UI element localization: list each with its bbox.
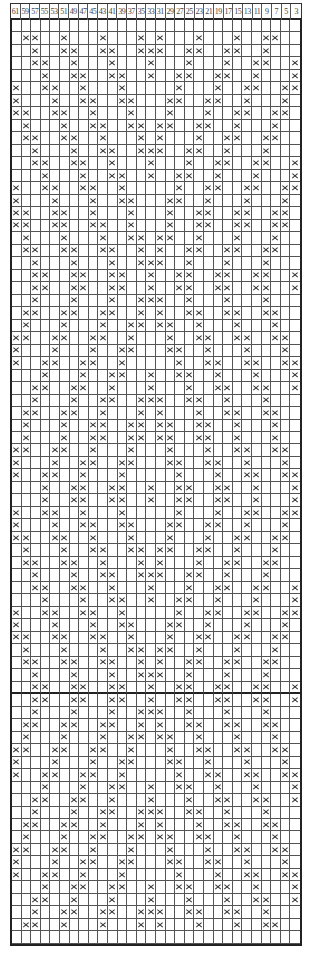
empty-cell [79,931,89,943]
empty-cell [290,807,300,819]
empty-cell [31,232,41,244]
empty-cell [31,320,41,332]
empty-cell [262,195,272,207]
cross-stitch-cell [156,395,166,407]
cross-stitch-cell [146,157,156,169]
cross-stitch-cell [281,757,291,769]
cross-stitch-cell [41,682,51,694]
empty-cell [156,881,166,893]
cross-stitch-cell [214,469,224,481]
cross-stitch-cell [12,507,22,519]
empty-cell [79,257,89,269]
empty-cell [50,644,60,656]
cross-stitch-cell [98,632,108,644]
empty-cell [223,532,233,544]
cross-stitch-cell [146,57,156,69]
empty-cell [281,307,291,319]
cross-stitch-cell [89,182,99,194]
empty-cell [31,220,41,232]
cross-stitch-cell [98,220,108,232]
cross-stitch-cell [146,145,156,157]
cross-stitch-cell [70,682,80,694]
cross-stitch-cell [281,744,291,756]
cross-stitch-cell [185,719,195,731]
empty-cell [233,881,243,893]
empty-cell [137,507,147,519]
empty-cell [290,420,300,432]
cross-stitch-cell [204,607,214,619]
cross-stitch-cell [214,157,224,169]
empty-cell [223,207,233,219]
empty-cell [118,232,128,244]
empty-cell [262,457,272,469]
cross-stitch-cell [108,694,118,706]
empty-cell [204,906,214,918]
cross-stitch-cell [290,769,300,781]
column-number: 57 [30,4,40,20]
cross-stitch-cell [204,95,214,107]
cross-stitch-cell [281,345,291,357]
cross-stitch-cell [146,906,156,918]
cross-stitch-cell [262,557,272,569]
empty-cell [281,45,291,57]
cross-stitch-cell [281,207,291,219]
empty-cell [108,869,118,881]
empty-cell [41,831,51,843]
cross-stitch-cell [262,819,272,831]
cross-stitch-cell [156,295,166,307]
cross-stitch-cell [223,569,233,581]
empty-cell [175,45,185,57]
empty-cell [127,307,137,319]
empty-cell [31,769,41,781]
empty-cell [271,345,281,357]
cross-stitch-cell [233,220,243,232]
cross-stitch-cell [137,657,147,669]
empty-cell [166,782,176,794]
empty-cell [22,257,32,269]
empty-cell [185,469,195,481]
cross-stitch-cell [22,444,32,456]
cross-stitch-cell [60,657,70,669]
cross-stitch-cell [108,906,118,918]
empty-cell [50,20,60,32]
empty-cell [41,45,51,57]
empty-cell [166,257,176,269]
cross-stitch-cell [118,519,128,531]
cross-stitch-cell [223,894,233,906]
empty-cell [31,931,41,943]
empty-cell [281,732,291,744]
empty-cell [156,532,166,544]
empty-cell [41,32,51,44]
cross-stitch-cell [22,207,32,219]
cross-stitch-cell [204,844,214,856]
empty-cell [12,32,22,44]
empty-cell [233,469,243,481]
cross-stitch-cell [175,594,185,606]
empty-cell [233,782,243,794]
empty-cell [194,594,204,606]
empty-cell [50,807,60,819]
cross-stitch-cell [137,707,147,719]
empty-cell [146,757,156,769]
cross-stitch-cell [60,532,70,544]
empty-cell [204,307,214,319]
empty-cell [12,644,22,656]
empty-cell [12,157,22,169]
empty-cell [242,407,252,419]
cross-stitch-cell [60,107,70,119]
empty-cell [50,794,60,806]
empty-cell [12,70,22,82]
cross-stitch-cell [89,757,99,769]
cross-stitch-cell [194,732,204,744]
cross-stitch-cell [70,482,80,494]
column-number: 37 [127,4,137,20]
empty-cell [70,332,80,344]
empty-cell [12,819,22,831]
cross-stitch-cell [22,332,32,344]
cross-stitch-cell [156,669,166,681]
empty-cell [281,57,291,69]
cross-stitch-cell [41,494,51,506]
empty-cell [233,482,243,494]
empty-cell [108,207,118,219]
cross-stitch-cell [118,357,128,369]
